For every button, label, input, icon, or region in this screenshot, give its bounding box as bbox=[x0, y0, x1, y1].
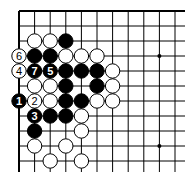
black-stone bbox=[59, 34, 73, 48]
white-stone-circle bbox=[74, 49, 88, 63]
black-stone bbox=[90, 64, 104, 78]
white-stone-circle bbox=[105, 79, 119, 93]
white-stone-circle bbox=[43, 94, 57, 108]
black-stone: 5 bbox=[43, 64, 57, 78]
black-stone-circle bbox=[59, 64, 73, 78]
stones-layer: 6475123 bbox=[12, 34, 120, 168]
white-stone bbox=[43, 79, 57, 93]
white-stone bbox=[90, 94, 104, 108]
white-stone-circle bbox=[105, 94, 119, 108]
black-stone-circle bbox=[43, 49, 57, 63]
move-number-label: 6 bbox=[16, 50, 22, 62]
move-number-label: 3 bbox=[32, 110, 38, 122]
white-stone bbox=[90, 49, 104, 63]
go-board: 6475123 bbox=[0, 0, 196, 178]
black-stone-circle bbox=[59, 34, 73, 48]
black-stone bbox=[90, 79, 104, 93]
black-stone: 1 bbox=[12, 94, 26, 108]
white-stone-circle bbox=[43, 154, 57, 168]
black-stone bbox=[74, 94, 88, 108]
white-stone-circle bbox=[74, 109, 88, 123]
white-stone-circle bbox=[74, 154, 88, 168]
white-stone-circle bbox=[105, 64, 119, 78]
black-stone-circle bbox=[59, 79, 73, 93]
black-stone bbox=[43, 49, 57, 63]
white-stone-circle bbox=[27, 79, 41, 93]
white-stone: 2 bbox=[27, 94, 41, 108]
white-stone bbox=[74, 154, 88, 168]
white-stone-circle bbox=[90, 94, 104, 108]
black-stone-circle bbox=[74, 94, 88, 108]
black-stone bbox=[59, 109, 73, 123]
white-stone bbox=[43, 154, 57, 168]
white-stone-circle bbox=[43, 34, 57, 48]
white-stone bbox=[105, 79, 119, 93]
black-stone-circle bbox=[59, 94, 73, 108]
black-stone-circle bbox=[59, 109, 73, 123]
white-stone bbox=[43, 94, 57, 108]
move-number-label: 4 bbox=[16, 65, 22, 77]
white-stone-circle bbox=[27, 139, 41, 153]
white-stone-circle bbox=[74, 124, 88, 138]
white-stone: 4 bbox=[12, 64, 26, 78]
black-stone: 7 bbox=[27, 64, 41, 78]
black-stone bbox=[27, 124, 41, 138]
black-stone-circle bbox=[90, 79, 104, 93]
white-stone bbox=[59, 49, 73, 63]
white-stone-circle bbox=[90, 49, 104, 63]
white-stone bbox=[59, 139, 73, 153]
black-stone-circle bbox=[27, 49, 41, 63]
black-stone bbox=[59, 64, 73, 78]
black-stone-circle bbox=[90, 64, 104, 78]
black-stone bbox=[59, 79, 73, 93]
white-stone-circle bbox=[59, 139, 73, 153]
black-stone: 3 bbox=[27, 109, 41, 123]
black-stone-circle bbox=[43, 109, 57, 123]
move-number-label: 7 bbox=[32, 65, 38, 77]
white-stone bbox=[105, 64, 119, 78]
star-point-dot bbox=[157, 54, 161, 58]
white-stone bbox=[27, 34, 41, 48]
black-stone bbox=[43, 109, 57, 123]
white-stone-circle bbox=[43, 79, 57, 93]
star-point-dot bbox=[157, 144, 161, 148]
white-stone bbox=[74, 109, 88, 123]
white-stone-circle bbox=[27, 34, 41, 48]
white-stone bbox=[27, 79, 41, 93]
black-stone bbox=[74, 64, 88, 78]
move-number-label: 5 bbox=[47, 65, 53, 77]
black-stone-circle bbox=[74, 64, 88, 78]
white-stone bbox=[74, 124, 88, 138]
white-stone bbox=[105, 94, 119, 108]
white-stone bbox=[43, 34, 57, 48]
black-stone-circle bbox=[27, 124, 41, 138]
white-stone: 6 bbox=[12, 49, 26, 63]
white-stone bbox=[74, 49, 88, 63]
black-stone bbox=[59, 94, 73, 108]
black-stone bbox=[27, 49, 41, 63]
move-number-label: 1 bbox=[16, 95, 22, 107]
white-stone-circle bbox=[59, 49, 73, 63]
white-stone bbox=[27, 139, 41, 153]
move-number-label: 2 bbox=[32, 95, 38, 107]
